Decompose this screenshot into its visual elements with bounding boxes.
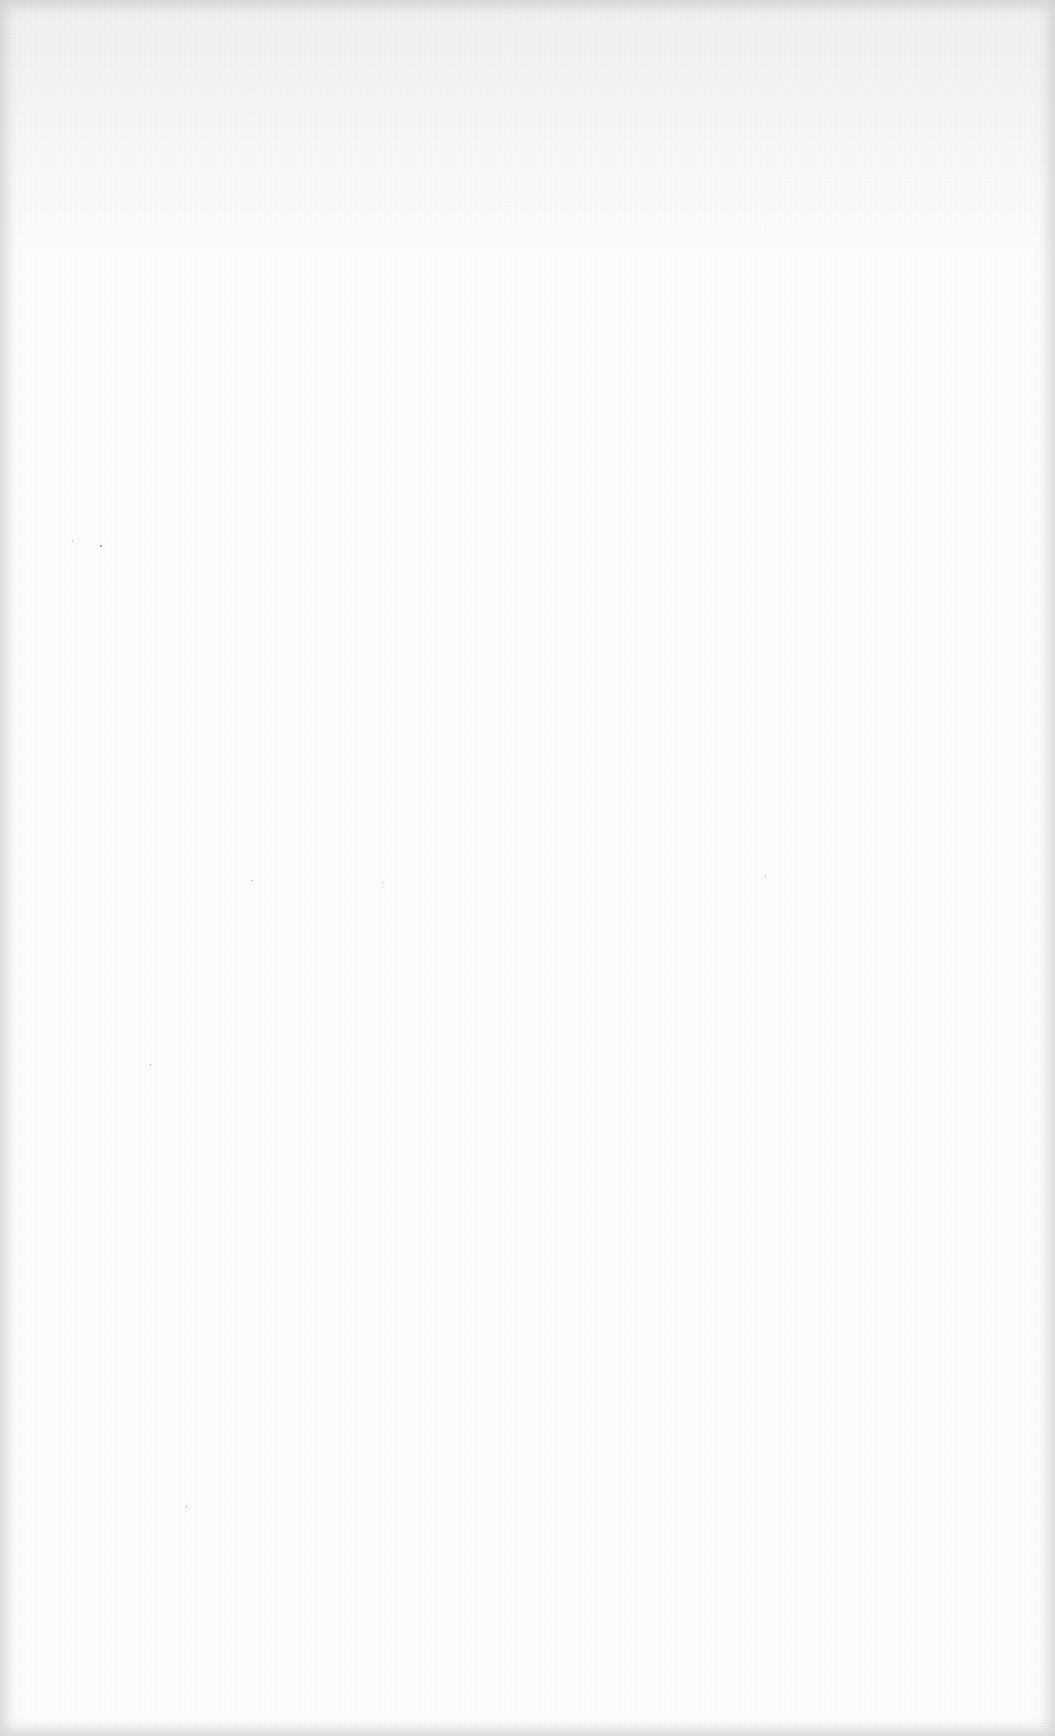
dust-speck	[150, 1064, 151, 1065]
blank-page	[0, 0, 1055, 1736]
dust-speck	[186, 1506, 187, 1507]
dust-speck	[765, 876, 766, 877]
dust-speck	[382, 882, 383, 883]
dust-speck	[252, 880, 253, 881]
paper-grain	[0, 0, 1055, 1736]
dust-speck	[72, 540, 73, 541]
scan-shading	[0, 0, 1055, 260]
dust-speck	[100, 545, 102, 547]
